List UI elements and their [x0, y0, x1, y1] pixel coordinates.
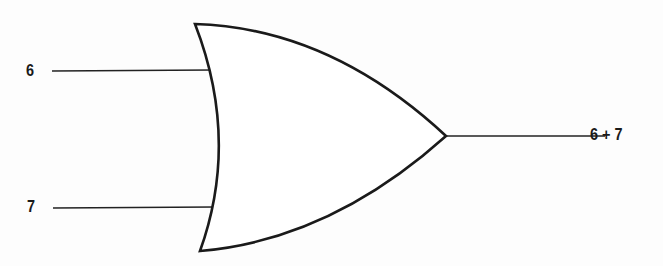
input-label-a: 6 [26, 61, 34, 81]
input-wire-a [52, 70, 212, 71]
input-label-b: 7 [27, 197, 35, 217]
or-gate-diagram [0, 0, 663, 266]
input-wire-b [53, 207, 214, 208]
or-gate-body [195, 24, 446, 251]
output-label: 6 + 7 [590, 125, 623, 145]
